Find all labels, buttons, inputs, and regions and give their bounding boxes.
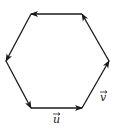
edge-F-A xyxy=(6,61,31,108)
edge-E-F xyxy=(6,14,31,61)
vector-hexagon-diagram: u v xyxy=(0,0,115,131)
label-u: u xyxy=(53,113,60,127)
hexagon-edges xyxy=(6,14,109,108)
edge-C-D xyxy=(82,14,109,61)
label-v: v xyxy=(100,91,107,105)
